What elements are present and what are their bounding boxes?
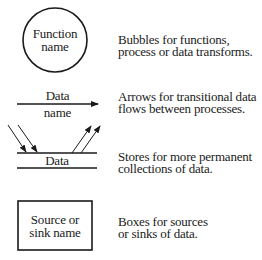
store-incoming-arrows-icon <box>8 125 37 152</box>
data-flow-description: Arrows for transitional data flows betwe… <box>118 91 256 115</box>
data-flow-description-line-2: flows between processes. <box>118 103 256 115</box>
process-description: Bubbles for functions, process or data t… <box>118 34 253 58</box>
source-sink-description: Boxes for sources or sinks of data. <box>118 216 208 240</box>
data-store-description-line-2: collections of data. <box>118 163 252 175</box>
data-flow-label-bottom: name <box>17 106 98 119</box>
source-sink-description-line-2: or sinks of data. <box>118 228 208 240</box>
source-sink-label-line-2: sink name <box>18 226 92 239</box>
process-label-line-2: name <box>23 40 87 53</box>
source-sink-label: Source or sink name <box>18 213 92 239</box>
store-outgoing-arrows-icon <box>72 126 100 153</box>
data-store-label: Data <box>17 154 97 167</box>
data-store-description: Stores for more permanent collections of… <box>118 151 252 175</box>
data-flow-label-top: Data <box>17 89 98 102</box>
process-description-line-2: process or data transforms. <box>118 46 253 58</box>
process-label: Function name <box>23 27 87 53</box>
